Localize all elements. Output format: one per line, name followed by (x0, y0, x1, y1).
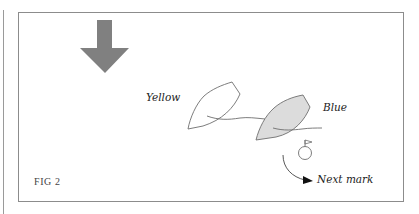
down-arrow-icon (80, 20, 129, 73)
curved-arrow-icon (283, 155, 313, 184)
blue-boat-label: Blue (323, 101, 347, 113)
yellow-boat-label: Yellow (146, 91, 180, 103)
blue-boat (256, 95, 322, 140)
next-mark-label: Next mark (317, 173, 373, 185)
yellow-boat (188, 82, 265, 129)
figure-caption: FIG 2 (34, 176, 61, 187)
mark-buoy-flag-icon (299, 140, 313, 160)
